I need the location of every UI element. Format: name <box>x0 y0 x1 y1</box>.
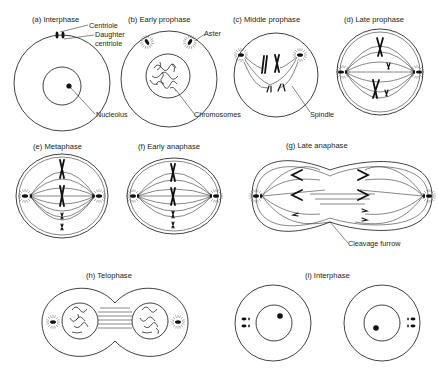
chromosome <box>61 224 63 230</box>
chromosome <box>60 160 64 178</box>
chromatid <box>293 213 298 216</box>
aster-left-icon <box>234 48 248 62</box>
cell-membrane-left <box>235 285 311 361</box>
label-cleavage-furrow: Cleavage furrow <box>348 239 401 248</box>
chromosome <box>171 188 175 205</box>
panel-f-early-anaphase: (f) Early anaphase <box>126 142 223 234</box>
panel-d-title: (d) Late prophase <box>344 15 404 24</box>
nucleolus-left <box>277 313 283 319</box>
label-centriole: Centriole <box>89 21 118 30</box>
chromatin-right <box>140 307 159 334</box>
aster-right-icon <box>422 189 436 203</box>
panel-h-title: (h) Telophase <box>86 271 132 280</box>
chromatid <box>292 190 302 200</box>
nucleolus-right <box>373 325 379 331</box>
panel-a-title: (a) Interphase <box>32 15 79 24</box>
daughter-nucleus-right <box>132 303 168 339</box>
panel-i-interphase: (i) Interphase <box>235 271 420 361</box>
panel-b-early-prophase: (b) Early prophase Aster Chromosomes <box>121 15 241 127</box>
panel-c-middle-prophase: (c) Middle prophase Spindle <box>233 15 334 119</box>
aster-right-icon <box>293 48 307 62</box>
panel-a-interphase: (a) Interphase Centriole Daughter centri… <box>14 15 128 131</box>
chromatid <box>292 170 302 180</box>
nucleus-right <box>364 305 400 341</box>
panel-g-title: (g) Late anaphase <box>286 141 348 150</box>
cell-membrane-right <box>344 285 420 361</box>
daughter-nucleus-left <box>62 303 98 339</box>
daughter-centriole-icon <box>62 32 65 39</box>
label-aster: Aster <box>204 29 221 38</box>
panel-b-title: (b) Early prophase <box>128 15 190 24</box>
aster-left-icon <box>46 315 60 329</box>
spindle-fibres <box>244 57 298 88</box>
label-spindle: Spindle <box>310 110 334 119</box>
aster-left-icon <box>126 189 140 203</box>
chromosome <box>172 222 174 228</box>
chromosome <box>373 80 379 98</box>
chromatid <box>358 170 368 180</box>
panel-f-title: (f) Early anaphase <box>138 142 200 151</box>
aster-left-icon <box>137 32 156 51</box>
centriole-icon <box>411 318 416 321</box>
panel-e-title: (e) Metaphase <box>33 142 82 151</box>
chromosome <box>377 38 383 56</box>
panel-i-title: (i) Interphase <box>305 271 350 280</box>
chromosome <box>387 63 390 69</box>
spindle-fibres <box>340 32 420 112</box>
midbody-fibres <box>98 308 132 328</box>
chromosome <box>267 86 271 92</box>
nucleus <box>146 54 190 98</box>
label-daughter: Daughter <box>95 30 125 39</box>
chromosome <box>275 55 279 72</box>
chromosome <box>262 56 267 73</box>
label-chromosomes: Chromosomes <box>194 110 241 119</box>
panel-e-metaphase: (e) Metaphase <box>16 142 108 238</box>
centriole-icon <box>56 32 59 39</box>
label-centriole-2: centriole <box>95 39 122 48</box>
centriole-icon <box>242 325 247 328</box>
chromosome <box>61 213 63 219</box>
panel-d-late-prophase: (d) Late prophase <box>336 15 424 115</box>
aster-right-icon <box>171 315 185 329</box>
chromosome <box>171 164 175 181</box>
mitosis-diagram: (a) Interphase Centriole Daughter centri… <box>0 0 438 374</box>
chromatid <box>362 218 367 221</box>
label-nucleolus: Nucleolus <box>96 110 128 119</box>
aster-left-icon <box>18 189 32 203</box>
aster-right-icon <box>92 189 106 203</box>
spindle-fibres <box>256 167 428 226</box>
nucleus-left <box>256 305 292 341</box>
chromatin-left <box>70 307 88 333</box>
aster-right-icon <box>209 189 223 203</box>
chromosomes-tangle <box>150 62 178 91</box>
panel-c-title: (c) Middle prophase <box>233 15 300 24</box>
panel-g-late-anaphase: (g) Late anaphase Cleavage furrow <box>249 141 436 248</box>
centriole-icon <box>242 318 247 321</box>
aster-left-icon <box>336 65 350 79</box>
cell-membrane <box>234 33 318 117</box>
panel-h-telophase: (h) Telophase <box>42 271 188 356</box>
chromosome <box>385 90 388 96</box>
chromatid <box>362 209 367 212</box>
aster-left-icon <box>249 189 263 203</box>
cell-membrane <box>42 288 188 356</box>
aster-right-icon <box>410 65 424 79</box>
aster-right-icon <box>180 32 199 51</box>
nucleus <box>43 67 81 105</box>
chromatid <box>358 190 368 200</box>
centriole-icon <box>411 325 416 328</box>
